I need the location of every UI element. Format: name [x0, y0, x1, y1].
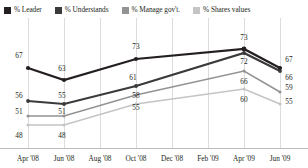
x-tick-jun08: Jun '08	[54, 154, 75, 163]
legend-label-leader: % Leader	[14, 6, 42, 14]
axis-baseline	[0, 148, 308, 149]
data-label-understands-oct08: 61	[129, 74, 136, 82]
data-label-understands-apr09: 72	[240, 58, 247, 66]
legend-label-shares-values: % Shares values	[203, 6, 250, 14]
x-tick-aug08: Aug '08	[88, 154, 111, 163]
legend-item-manage-govt[interactable]: % Manage gov't.	[122, 6, 181, 14]
data-label-manage-govt-apr08: 51	[15, 108, 22, 116]
x-tick-apr09: Apr '09	[233, 154, 255, 163]
legend-swatch-leader	[4, 7, 11, 14]
data-label-shares-values-apr09: 60	[240, 96, 247, 104]
legend-swatch-understands	[55, 7, 62, 14]
data-label-leader-jun09: 67	[285, 56, 292, 64]
data-label-shares-values-oct08: 55	[132, 104, 139, 112]
data-label-manage-govt-apr09: 66	[240, 78, 247, 86]
data-label-leader-apr09: 73	[240, 34, 247, 42]
chart-legend: % Leader % Understands % Manage gov't. %…	[4, 3, 304, 17]
legend-item-leader[interactable]: % Leader	[4, 6, 42, 14]
x-tick-oct08: Oct '08	[126, 154, 147, 163]
line-chart: % Leader % Understands % Manage gov't. %…	[0, 0, 308, 168]
data-label-leader-jun08: 63	[58, 65, 65, 73]
legend-label-manage-govt: % Manage gov't.	[132, 6, 181, 14]
data-label-shares-values-jun08: 48	[58, 132, 65, 140]
data-label-leader-oct08: 73	[132, 43, 139, 51]
data-label-manage-govt-jun09: 59	[285, 84, 292, 92]
x-tick-jun09: Jun '09	[270, 154, 291, 163]
plot-svg	[0, 18, 308, 148]
x-tick-feb09: Feb '09	[197, 154, 218, 163]
legend-item-shares-values[interactable]: % Shares values	[193, 6, 250, 14]
x-tick-apr08: Apr '08	[17, 154, 39, 163]
data-label-shares-values-apr08: 48	[15, 132, 22, 140]
x-tick-dec08: Dec '08	[161, 154, 183, 163]
data-label-manage-govt-oct08: 58	[132, 92, 139, 100]
legend-label-understands: % Understands	[65, 6, 109, 14]
plot-area: 67 63 73 73 67 56 55 61 72 66 51 51 58 6…	[0, 18, 308, 148]
data-label-leader-apr08: 67	[15, 52, 22, 60]
x-axis: Apr '08 Jun '08 Aug '08 Oct '08 Dec '08 …	[0, 151, 308, 167]
legend-item-understands[interactable]: % Understands	[55, 6, 109, 14]
legend-swatch-shares-values	[193, 7, 200, 14]
data-label-shares-values-jun09: 55	[285, 98, 292, 106]
data-label-understands-jun09: 66	[285, 74, 292, 82]
data-label-manage-govt-jun08: 51	[58, 108, 65, 116]
legend-swatch-manage-govt	[122, 7, 129, 14]
data-label-understands-apr08: 56	[15, 92, 22, 100]
data-label-understands-jun08: 55	[58, 92, 65, 100]
